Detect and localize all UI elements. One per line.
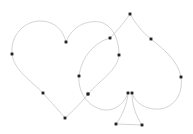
heart-anchor-handle[interactable] [118, 54, 120, 56]
spade-anchor-handle[interactable] [150, 38, 152, 40]
heart-path[interactable] [12, 21, 119, 118]
spade-anchor-handle[interactable] [131, 92, 133, 94]
spade-anchor-handle[interactable] [115, 123, 117, 125]
spade-anchor-handle[interactable] [127, 92, 129, 94]
heart-anchor-handle[interactable] [42, 92, 44, 94]
spade-anchor-handle[interactable] [129, 13, 131, 15]
spade-anchor-handle[interactable] [78, 75, 80, 77]
heart-anchor-handle[interactable] [65, 41, 67, 43]
spade-anchor-handle[interactable] [87, 93, 89, 95]
shapes-layer [12, 14, 182, 125]
drawing-canvas[interactable] [0, 0, 193, 134]
spade-path[interactable] [79, 14, 182, 125]
heart-anchor-handle[interactable] [64, 117, 66, 119]
spade-anchor-handle[interactable] [180, 76, 182, 78]
heart-anchor-handle[interactable] [11, 53, 13, 55]
spade-anchor-handle[interactable] [141, 124, 143, 126]
spade-anchor-handle[interactable] [109, 37, 111, 39]
